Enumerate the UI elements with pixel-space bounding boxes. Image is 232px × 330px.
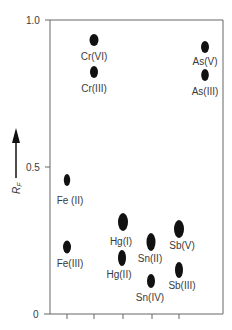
- rf-axis-label: RF: [11, 128, 23, 194]
- label-sn2: Sn(II): [138, 253, 162, 264]
- label-sb3: Sb(III): [168, 280, 195, 291]
- spot-sb3: [175, 262, 183, 278]
- label-as3: As(III): [192, 86, 219, 97]
- spot-as5: [201, 41, 209, 53]
- spot-hg1: [118, 213, 128, 231]
- label-as5: As(V): [193, 56, 218, 67]
- label-sb5: Sb(V): [169, 240, 195, 251]
- label-hg2: Hg(II): [107, 269, 132, 280]
- spot-fe2: [64, 174, 70, 186]
- label-fe3: Fe(III): [57, 258, 84, 269]
- y-tick-05: 0.5: [26, 162, 40, 173]
- label-cr3: Cr(III): [81, 83, 107, 94]
- y-tick-1: 1.0: [26, 15, 40, 26]
- label-fe2: Fe (II): [57, 195, 84, 206]
- spot-as3: [201, 69, 209, 81]
- spot-sb5: [174, 220, 184, 238]
- spot-cr6: [90, 34, 99, 46]
- label-sn4: Sn(IV): [136, 292, 164, 303]
- label-cr6: Cr(VI): [81, 51, 108, 62]
- spot-fe3: [63, 241, 71, 254]
- y-tick-0: 0: [33, 309, 39, 320]
- label-hg1: Hg(I): [110, 236, 132, 247]
- spot-sn2: [147, 233, 156, 251]
- spot-hg2: [118, 250, 126, 266]
- tlc-chart: 1.0 0.5 0 RF Cr(VI) Cr(III) A: [0, 0, 232, 330]
- svg-text:RF: RF: [11, 182, 23, 194]
- spot-sn4: [147, 274, 155, 288]
- spot-cr3: [90, 66, 98, 78]
- spot-labels: Cr(VI) Cr(III) As(V) As(III) Fe (II) Fe(…: [57, 51, 219, 303]
- y-axis: 1.0 0.5 0: [26, 15, 50, 320]
- x-axis-ticks: [67, 314, 179, 319]
- arrow-up-icon: [12, 128, 20, 143]
